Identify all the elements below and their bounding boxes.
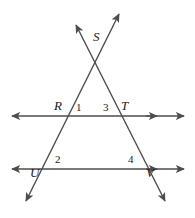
point-label-u: U (30, 166, 39, 179)
point-label-v: V (146, 166, 154, 179)
parallel-lines-group (12, 116, 184, 169)
point-label-s: S (93, 30, 100, 43)
angle-label-2: 2 (55, 154, 61, 165)
angle-label-4: 4 (128, 154, 134, 165)
angle-label-1: 1 (76, 102, 82, 113)
geometry-diagram: S R T U V 1 3 2 4 (0, 0, 195, 218)
point-label-r: R (54, 99, 62, 112)
point-label-t: T (121, 99, 128, 112)
angle-label-3: 3 (103, 102, 109, 113)
